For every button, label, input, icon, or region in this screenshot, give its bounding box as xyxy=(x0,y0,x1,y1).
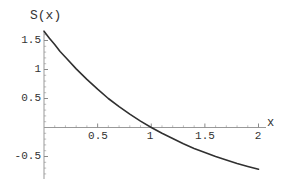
curve-Sx xyxy=(44,31,259,169)
x-tick-label-1: 1 xyxy=(147,130,154,143)
x-tick-label-1p5: 1.5 xyxy=(195,130,215,143)
x-tick-label-2: 2 xyxy=(255,130,262,143)
y-tick-label-m0p5: -0.5 xyxy=(0,150,41,163)
y-tick-label-1p5: 1.5 xyxy=(0,34,41,47)
y-tick-label-0p5: 0.5 xyxy=(0,92,41,105)
y-axis-title: S(x) xyxy=(30,8,61,23)
y-tick-label-1: 1 xyxy=(0,63,41,76)
plot-canvas xyxy=(0,0,289,187)
x-axis-title: x xyxy=(267,117,274,130)
x-tick-label-0p5: 0.5 xyxy=(88,130,108,143)
plot-figure: S(x) x 1.5 1 0.5 -0.5 0.5 1 1.5 2 xyxy=(0,0,289,187)
